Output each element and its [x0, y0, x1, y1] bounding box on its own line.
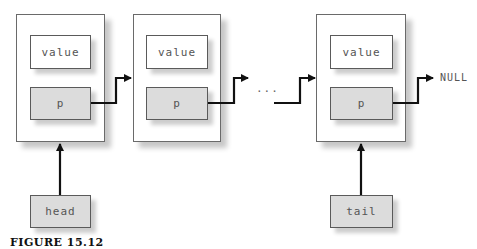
ellipsis-label: ...: [256, 82, 279, 95]
arrow-ellipsis-to-node3: [274, 78, 315, 103]
figure-caption: FIGURE 15.12: [10, 236, 104, 249]
null-label: NULL: [440, 72, 468, 83]
arrow-node2-to-ellipsis: [208, 78, 248, 103]
arrow-node3-to-null: [393, 78, 433, 103]
arrow-node1-to-node2: [91, 78, 131, 103]
